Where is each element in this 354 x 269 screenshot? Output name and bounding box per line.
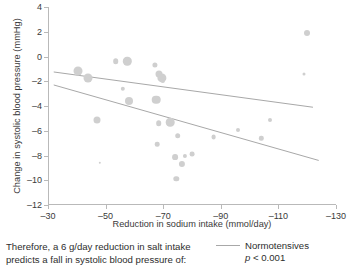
legend-entry-normotensives: Normotensives (216, 240, 352, 251)
scatter-point (211, 135, 216, 140)
x-axis-tick (163, 205, 164, 209)
x-axis-tick (106, 205, 107, 209)
scatter-point (74, 67, 83, 76)
plot-area: 420–2–4–6–8–10–12 –30–50–70–90–110–130 (48, 7, 336, 205)
legend-line-swatch (216, 245, 240, 246)
scatter-point (152, 96, 161, 105)
scatter-point (84, 73, 93, 82)
scatter-point (303, 72, 306, 75)
scatter-point (125, 97, 133, 105)
scatter-point (175, 133, 181, 139)
y-axis-tick-label: –6 (32, 126, 42, 136)
regression-lines (48, 7, 336, 205)
legend-label: Normotensives (245, 240, 309, 251)
scatter-point (156, 121, 162, 127)
p-value-text: < 0.001 (250, 252, 285, 263)
caption-line-1: Therefore, a 6 g/day reduction in salt i… (6, 240, 216, 253)
y-axis-tick-label: 2 (37, 27, 42, 37)
figure-caption: Therefore, a 6 g/day reduction in salt i… (6, 240, 216, 266)
regression-line-hypertensives (54, 85, 319, 160)
y-axis-tick-label: 4 (37, 2, 42, 12)
scatter-point (304, 30, 310, 36)
x-axis-tick (336, 205, 337, 209)
scatter-point (172, 154, 178, 160)
x-axis-title: Reduction in sodium intake (mmol/day) (48, 219, 336, 229)
scatter-chart: Change in systolic blood pressure (mmHg)… (0, 0, 354, 235)
chart-legend: Normotensives p < 0.001 (216, 240, 352, 263)
scatter-point (190, 152, 195, 157)
y-axis-tick-label: –2 (32, 76, 42, 86)
y-axis-tick-label: 0 (37, 52, 42, 62)
y-axis-title: Change in systolic blood pressure (mmHg) (12, 1, 22, 211)
scatter-point (166, 118, 175, 127)
x-axis-tick (48, 205, 49, 209)
scatter-point (155, 142, 160, 147)
y-axis-tick-label: –8 (32, 151, 42, 161)
figure-root: Change in systolic blood pressure (mmHg)… (0, 0, 354, 269)
y-axis-tick-label: –12 (27, 200, 42, 210)
scatter-point (236, 128, 240, 132)
y-axis-tick-label: –4 (32, 101, 42, 111)
x-axis-tick (278, 205, 279, 209)
x-axis-tick (221, 205, 222, 209)
legend-p-value: p < 0.001 (245, 252, 352, 263)
y-axis-tick-label: –10 (27, 175, 42, 185)
scatter-point (93, 116, 100, 123)
caption-line-2: predicts a fall in systolic blood pressu… (6, 253, 216, 266)
scatter-point (268, 118, 272, 122)
scatter-point (113, 59, 119, 65)
